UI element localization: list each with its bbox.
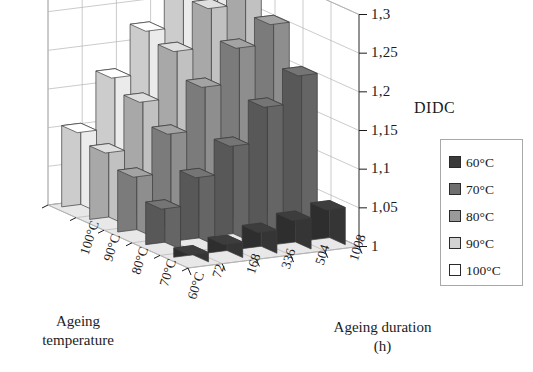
figure-root: .wall { fill:#ffffff; stroke:#9a9a9a; st… — [0, 0, 533, 372]
value-axis-tick-2: 1,1 — [371, 160, 390, 177]
legend-swatch-icon — [449, 264, 461, 276]
legend-item-80c[interactable]: 80°C — [449, 208, 494, 224]
legend-label: 60°C — [466, 156, 494, 169]
legend-label: 100°C — [466, 264, 501, 277]
legend-label: 90°C — [466, 237, 494, 250]
category-axis-title-line1: Ageing duration — [300, 318, 465, 337]
depth-axis-title-line1: Ageing — [8, 312, 148, 331]
value-axis-tick-0: 1 — [371, 238, 379, 255]
value-axis-tick-5: 1,25 — [371, 44, 398, 61]
value-axis-tick-1: 1,05 — [371, 199, 398, 216]
legend-label: 80°C — [466, 210, 494, 223]
value-axis-tick-3: 1,15 — [371, 122, 398, 139]
depth-axis-title-line2: temperature — [8, 331, 148, 350]
legend-swatch-icon — [449, 210, 461, 222]
category-axis-title-line2: (h) — [300, 337, 465, 356]
value-axis-tick-4: 1,2 — [371, 83, 390, 100]
legend-item-70c[interactable]: 70°C — [449, 181, 494, 197]
category-axis-title: Ageing duration (h) — [300, 318, 465, 356]
legend-swatch-icon — [449, 156, 461, 168]
value-axis-title: DIDC — [414, 99, 455, 117]
legend-swatch-icon — [449, 183, 461, 195]
legend-item-100c[interactable]: 100°C — [449, 262, 501, 278]
legend-item-90c[interactable]: 90°C — [449, 235, 494, 251]
depth-axis-title: Ageing temperature — [8, 312, 148, 350]
legend-swatch-icon — [449, 237, 461, 249]
legend: 60°C70°C80°C90°C100°C — [440, 139, 523, 286]
value-axis-tick-6: 1,3 — [371, 6, 390, 23]
legend-label: 70°C — [466, 183, 494, 196]
legend-item-60c[interactable]: 60°C — [449, 154, 494, 170]
